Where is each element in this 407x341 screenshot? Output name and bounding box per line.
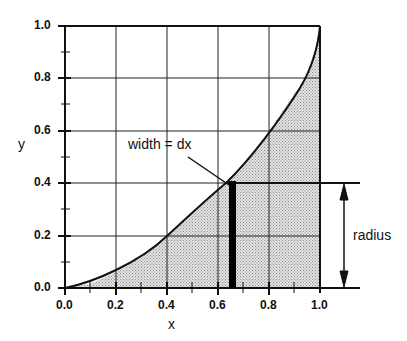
y-tick-label: 0.8 (34, 70, 51, 84)
y-tick-label: 0.4 (34, 175, 51, 189)
y-axis-title: y (18, 136, 25, 152)
diagram-canvas (0, 0, 407, 341)
x-tick-label: 0.0 (56, 298, 73, 312)
y-tick-label: 0.2 (34, 228, 51, 242)
x-tick-label: 0.8 (260, 298, 277, 312)
x-tick-label: 0.2 (107, 298, 124, 312)
width-pointer (188, 157, 229, 185)
radius-arrow (340, 184, 348, 287)
x-tick-label: 1.0 (311, 298, 328, 312)
width-label: width = dx (128, 136, 191, 152)
radius-label: radius (353, 227, 391, 243)
y-tick-label: 0.0 (34, 280, 51, 294)
dx-strip (229, 181, 236, 288)
x-tick-label: 0.6 (209, 298, 226, 312)
shaded-area (65, 26, 320, 288)
x-tick-label: 0.4 (158, 298, 175, 312)
y-tick-label: 1.0 (34, 18, 51, 32)
y-tick-label: 0.6 (34, 123, 51, 137)
x-axis-title: x (168, 316, 175, 332)
